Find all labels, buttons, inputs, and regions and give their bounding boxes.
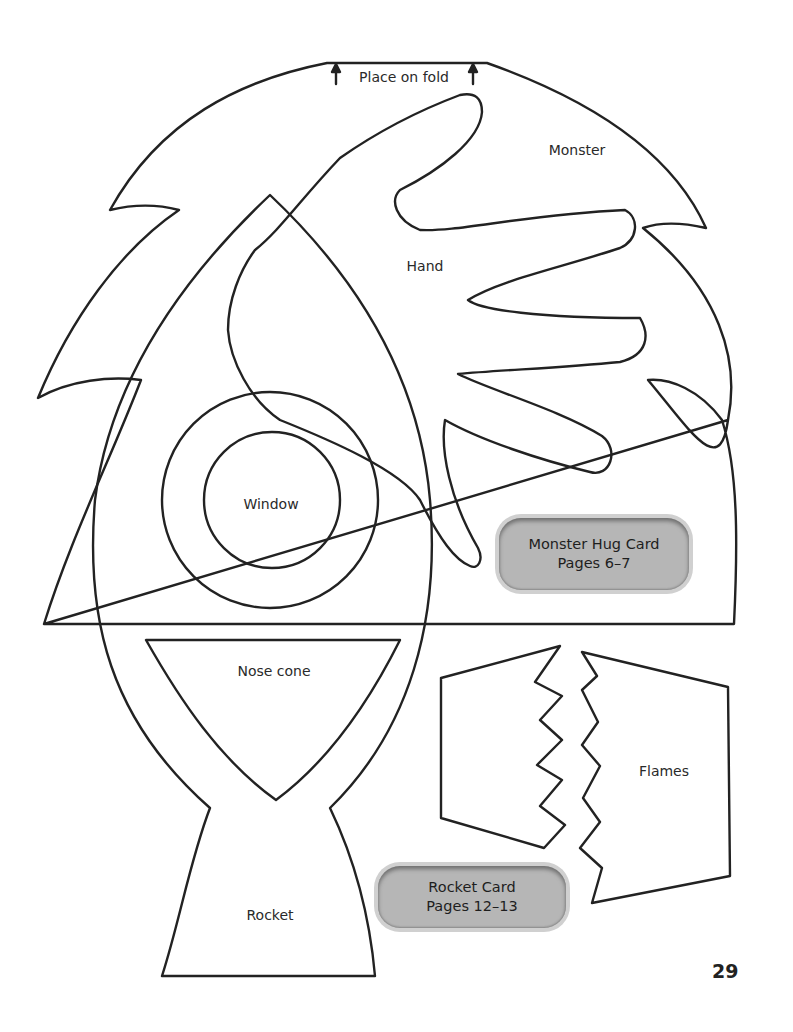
rocket-label: Rocket [246,907,293,923]
arrow-up-icon-right-head [469,64,477,72]
badge-pages: Pages 12–13 [426,897,517,916]
rocket-outline [93,195,432,976]
window-label: Window [243,496,298,512]
nose-cone-label: Nose cone [237,663,310,679]
monster-label: Monster [549,142,606,158]
monster-hug-card-badge: Monster Hug Card Pages 6–7 [499,518,689,590]
badge-pages: Pages 6–7 [558,554,631,573]
fold-label: Place on fold [359,69,449,85]
rocket-card-badge: Rocket Card Pages 12–13 [378,866,566,928]
flames-label: Flames [639,763,689,779]
badge-title: Rocket Card [428,878,515,897]
arrow-up-icon-left-head [332,64,340,72]
badge-title: Monster Hug Card [528,535,659,554]
hand-label: Hand [407,258,444,274]
flames-left-outline [441,646,565,848]
page-number: 29 [712,960,738,982]
